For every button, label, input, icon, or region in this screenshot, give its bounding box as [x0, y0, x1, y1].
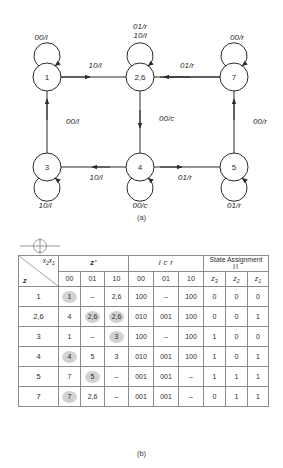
self-loop-label-3: 10/l: [39, 201, 52, 210]
next-state-cell: 7: [59, 387, 81, 407]
stable-state-marker: 2,6: [85, 311, 101, 323]
next-state-cell: –: [105, 367, 129, 387]
next-state-cell: 3: [105, 347, 129, 367]
state-assignment-cell: 0: [248, 327, 269, 347]
state-assignment-cell: 0: [226, 347, 248, 367]
subheader-z3: z3: [204, 271, 226, 286]
next-state-cell: 7: [59, 367, 81, 387]
next-state-cell: 2,6: [105, 307, 129, 327]
state-assignment-cell: 1: [248, 387, 269, 407]
next-state-cell: 2,6: [81, 387, 105, 407]
output-cell: 100: [129, 327, 154, 347]
edge-label-3-to-1: 00/l: [66, 117, 79, 126]
group-header-output: l c r: [129, 256, 204, 272]
row-state-label: 5: [19, 367, 59, 387]
edge-label-5-to-7: 00/r: [253, 117, 267, 126]
state-assignment-cell: 1: [204, 327, 226, 347]
state-label-5: 5: [232, 163, 237, 172]
state-diagram: 1 2,6 7 3 4 5 00/l 01/r 10/l 00/r 10/l 0…: [0, 0, 283, 228]
table-row: 772,6–001001–011: [19, 387, 269, 407]
edge-label-7-to-26: 01/r: [180, 61, 194, 70]
next-state-cell: –: [105, 387, 129, 407]
state-assignment-cell: 0: [226, 307, 248, 327]
state-assignment-cell: 0: [204, 307, 226, 327]
subheader-z1: z1: [248, 271, 269, 286]
next-state-cell: 5: [81, 367, 105, 387]
row-state-label: 7: [19, 387, 59, 407]
row-state-label: 4: [19, 347, 59, 367]
state-assignment-cell: 0: [248, 287, 269, 307]
next-state-cell: 2,6: [81, 307, 105, 327]
output-cell: 001: [154, 307, 179, 327]
edge-label-4-to-5: 01/r: [178, 173, 192, 182]
next-state-cell: 4: [59, 307, 81, 327]
state-assignment-cell: 1: [248, 367, 269, 387]
state-assignment-cell: 1: [226, 367, 248, 387]
next-state-cell: 4: [59, 347, 81, 367]
state-assignment-roman: II: [204, 263, 268, 270]
output-cell: 010: [129, 347, 154, 367]
state-assignment-cell: 0: [226, 327, 248, 347]
state-label-2-6: 2,6: [134, 73, 146, 82]
self-loop-label-2-6-line2: 10/l: [134, 31, 147, 40]
subheader-out-00: 00: [129, 271, 154, 286]
stable-state-marker: 4: [62, 351, 77, 363]
state-assignment-cell: 0: [204, 387, 226, 407]
flow-table-wrapper: x2x1 z z' l c r State Assignment II 00 0…: [18, 255, 268, 407]
state-assignment-label: State Assignment: [210, 256, 263, 263]
state-assignment-cell: 1: [204, 367, 226, 387]
output-cell: 100: [179, 307, 204, 327]
table-row: 2,642,62,6010001100001: [19, 307, 269, 327]
stable-state-marker: 1: [62, 291, 77, 303]
output-cell: 001: [154, 387, 179, 407]
output-cell: –: [179, 367, 204, 387]
stable-state-marker: 7: [62, 391, 77, 403]
stable-state-marker: 5: [85, 371, 100, 383]
flow-table: x2x1 z z' l c r State Assignment II 00 0…: [18, 255, 269, 407]
figure-a-caption: (a): [0, 213, 283, 222]
state-label-7: 7: [232, 73, 237, 82]
output-cell: 001: [154, 347, 179, 367]
output-cell: 010: [129, 307, 154, 327]
output-cell: 100: [179, 347, 204, 367]
edge-label-4-to-3: 10/l: [90, 173, 103, 182]
state-assignment-cell: 1: [204, 347, 226, 367]
output-cell: 100: [179, 327, 204, 347]
state-assignment-cell: 0: [204, 287, 226, 307]
subheader-out-10: 10: [179, 271, 204, 286]
output-cell: –: [154, 327, 179, 347]
next-state-cell: 1: [59, 287, 81, 307]
next-state-cell: 3: [105, 327, 129, 347]
corner-col-variable: x2x1: [43, 258, 55, 265]
output-cell: 100: [179, 287, 204, 307]
next-state-cell: –: [81, 327, 105, 347]
corner-row-variable: z: [23, 277, 27, 284]
output-cell: –: [154, 287, 179, 307]
table-corner-cell: x2x1 z: [19, 256, 59, 287]
state-label-3: 3: [45, 163, 50, 172]
edge-label-1-to-26: 10/l: [89, 61, 102, 70]
state-assignment-cell: 0: [226, 287, 248, 307]
stable-state-marker: 2,6: [109, 311, 125, 323]
self-loop-label-5: 01/r: [227, 201, 241, 210]
self-loop-label-2-6-line1: 01/r: [133, 22, 147, 31]
subheader-z2: z2: [226, 271, 248, 286]
table-row: 575–001001–111: [19, 367, 269, 387]
self-loop-label-7: 00/r: [230, 33, 244, 42]
state-assignment-cell: 1: [248, 307, 269, 327]
table-row: 11–2,6100–100000: [19, 287, 269, 307]
next-state-cell: 5: [81, 347, 105, 367]
self-loop-label-4: 00/c: [132, 201, 147, 210]
row-state-label: 2,6: [19, 307, 59, 327]
subheader-z-01: 01: [81, 271, 105, 286]
stable-state-marker: 3: [109, 331, 124, 343]
subheader-z-10: 10: [105, 271, 129, 286]
figure-b-caption: (b): [0, 449, 283, 458]
next-state-cell: –: [81, 287, 105, 307]
output-cell: –: [179, 387, 204, 407]
registration-crosshair-icon: [18, 236, 62, 256]
table-row: 4453010001100101: [19, 347, 269, 367]
output-cell: 100: [129, 287, 154, 307]
next-state-cell: 1: [59, 327, 81, 347]
row-state-label: 1: [19, 287, 59, 307]
